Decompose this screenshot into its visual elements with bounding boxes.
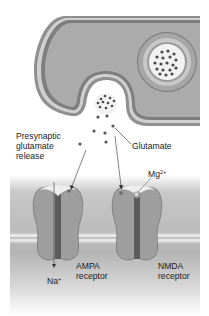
na-text: Na [47, 276, 58, 286]
label-line: glutamate [16, 141, 61, 151]
presynaptic-release-label: Presynaptic glutamate release [16, 131, 61, 161]
released-glutamate [78, 114, 114, 145]
glutamate-label: Glutamate [132, 141, 172, 151]
na-charge: + [58, 276, 61, 282]
label-line: Presynaptic [16, 131, 61, 141]
label-line: receptor [158, 271, 190, 281]
glutamate-text: Glutamate [132, 141, 172, 151]
glutamate-pointer [115, 128, 131, 144]
mg-ion-block [134, 192, 141, 199]
mg-text: Mg [148, 169, 160, 179]
ampa-receptor [33, 182, 83, 268]
nmda-receptor [112, 186, 162, 261]
ampa-label: AMPA receptor [76, 261, 108, 281]
mg-charge: 2+ [160, 169, 166, 175]
fusing-vesicle [95, 93, 117, 115]
ampa-pore [55, 192, 61, 259]
label-line: receptor [76, 271, 108, 281]
label-line: AMPA [76, 261, 108, 271]
na-label: Na+ [47, 276, 61, 286]
storage-vesicle [137, 32, 197, 92]
nmda-pore [134, 192, 140, 259]
label-line: release [16, 151, 61, 161]
nmda-label: NMDA receptor [158, 261, 190, 281]
label-line: NMDA [158, 261, 190, 271]
mg-label: Mg2+ [148, 169, 166, 179]
